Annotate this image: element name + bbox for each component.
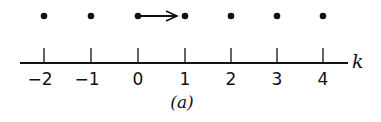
tick-label: 2 (226, 69, 237, 89)
tick-label: 0 (133, 69, 144, 89)
tick-labels: −2 −1 0 1 2 3 4 (27, 69, 328, 89)
figure-caption: (a) (170, 92, 193, 112)
point-3 (274, 13, 281, 20)
point-4 (320, 13, 327, 20)
tick-label: 1 (180, 69, 191, 89)
tick-label: 4 (318, 69, 329, 89)
lattice-points (41, 13, 327, 20)
number-line-diagram: −2 −1 0 1 2 3 4 k (a) (0, 0, 381, 122)
tick-label: 3 (272, 69, 283, 89)
shift-arrow-icon (138, 11, 177, 21)
point-2 (228, 13, 235, 20)
axis-label: k (352, 50, 364, 72)
point-neg1 (88, 13, 95, 20)
point-1 (182, 13, 189, 20)
tick-label: −2 (27, 69, 52, 89)
tick-marks (44, 48, 323, 63)
point-neg2 (41, 13, 48, 20)
tick-label: −1 (74, 69, 99, 89)
